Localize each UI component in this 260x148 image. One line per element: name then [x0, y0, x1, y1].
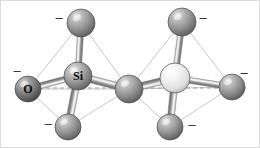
silicon-atom-right [160, 63, 190, 93]
oxygen-bridging-center [115, 75, 143, 103]
silicon-atom-left: Si [64, 62, 92, 90]
oxygen-terminal-top-right [168, 8, 196, 36]
molecule-canvas: SiO –––––– [0, 0, 260, 148]
oxygen-terminal-top-left [67, 9, 95, 37]
oxygen-terminal-left: O [15, 76, 41, 102]
oxygen-terminal-bottom-right [157, 114, 183, 140]
figure-background [0, 0, 260, 148]
oxygen-terminal-bottom-left [55, 114, 81, 140]
molecule-figure: SiO –––––– [0, 0, 260, 148]
oxygen-terminal-right [219, 74, 245, 100]
